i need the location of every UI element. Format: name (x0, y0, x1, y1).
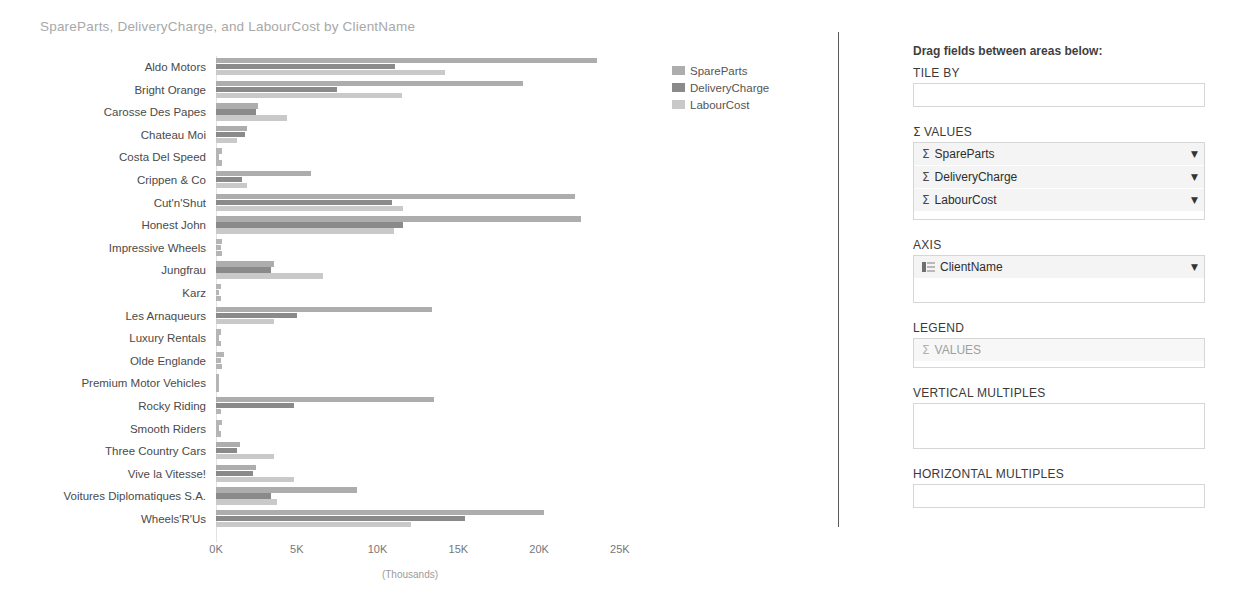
bar-labourcost[interactable] (216, 183, 247, 188)
bar-deliverycharge[interactable] (216, 154, 219, 159)
bar-labourcost[interactable] (216, 273, 323, 278)
bar-spareparts[interactable] (216, 352, 224, 357)
chevron-down-icon[interactable]: ▼ (1191, 149, 1198, 159)
bar-deliverycharge[interactable] (216, 200, 392, 205)
bar-labourcost[interactable] (216, 115, 287, 120)
bar-group[interactable] (216, 101, 636, 124)
bar-group[interactable] (216, 418, 636, 441)
bar-deliverycharge[interactable] (216, 109, 256, 114)
bar-deliverycharge[interactable] (216, 448, 237, 453)
bar-deliverycharge[interactable] (216, 358, 221, 363)
well-field-item[interactable]: ΣLabourCost▼ (914, 189, 1204, 212)
legend-item[interactable]: DeliveryCharge (672, 79, 769, 96)
bar-group[interactable] (216, 350, 636, 373)
legend-item[interactable]: SpareParts (672, 62, 769, 79)
bar-labourcost[interactable] (216, 499, 277, 504)
bar-deliverycharge[interactable] (216, 290, 219, 295)
bar-group[interactable] (216, 259, 636, 282)
bar-labourcost[interactable] (216, 409, 221, 414)
well-field-item[interactable]: ΣVALUES (914, 339, 1204, 362)
bar-group[interactable] (216, 79, 636, 102)
bar-labourcost[interactable] (216, 431, 221, 436)
bar-deliverycharge[interactable] (216, 403, 294, 408)
bar-deliverycharge[interactable] (216, 245, 221, 250)
bar-spareparts[interactable] (216, 442, 240, 447)
bar-deliverycharge[interactable] (216, 335, 219, 340)
bar-deliverycharge[interactable] (216, 380, 219, 385)
bar-labourcost[interactable] (216, 70, 445, 75)
bar-group[interactable] (216, 192, 636, 215)
chevron-down-icon[interactable]: ▼ (1191, 195, 1198, 205)
bar-group[interactable] (216, 508, 636, 531)
bar-deliverycharge[interactable] (216, 471, 253, 476)
bar-group[interactable] (216, 124, 636, 147)
bar-group[interactable] (216, 372, 636, 395)
bar-spareparts[interactable] (216, 261, 274, 266)
bar-spareparts[interactable] (216, 103, 258, 108)
chart-visual[interactable]: SpareParts, DeliveryCharge, and LabourCo… (0, 0, 836, 595)
bar-labourcost[interactable] (216, 522, 411, 527)
well-dropzone-values[interactable]: ΣSpareParts▼ΣDeliveryCharge▼ΣLabourCost▼ (913, 142, 1205, 220)
bar-labourcost[interactable] (216, 251, 222, 256)
well-field-item[interactable]: ClientName▼ (914, 256, 1204, 279)
chevron-down-icon[interactable]: ▼ (1191, 172, 1198, 182)
bar-spareparts[interactable] (216, 284, 221, 289)
bar-spareparts[interactable] (216, 487, 357, 492)
bar-labourcost[interactable] (216, 228, 394, 233)
bar-spareparts[interactable] (216, 329, 221, 334)
bar-group[interactable] (216, 169, 636, 192)
well-dropzone-legend[interactable]: ΣVALUES (913, 338, 1205, 368)
bar-spareparts[interactable] (216, 58, 597, 63)
bar-labourcost[interactable] (216, 364, 222, 369)
bar-labourcost[interactable] (216, 160, 222, 165)
bar-spareparts[interactable] (216, 126, 247, 131)
bar-labourcost[interactable] (216, 206, 403, 211)
bar-deliverycharge[interactable] (216, 222, 403, 227)
bar-labourcost[interactable] (216, 296, 221, 301)
well-field-item[interactable]: ΣDeliveryCharge▼ (914, 166, 1204, 189)
bar-labourcost[interactable] (216, 93, 402, 98)
bar-deliverycharge[interactable] (216, 493, 271, 498)
bar-spareparts[interactable] (216, 397, 434, 402)
bar-group[interactable] (216, 146, 636, 169)
bar-deliverycharge[interactable] (216, 425, 219, 430)
bar-labourcost[interactable] (216, 477, 294, 482)
well-dropzone-vertical-multiples[interactable] (913, 403, 1205, 449)
bar-group[interactable] (216, 237, 636, 260)
bar-deliverycharge[interactable] (216, 87, 337, 92)
bar-spareparts[interactable] (216, 171, 311, 176)
bar-labourcost[interactable] (216, 386, 219, 391)
bar-group[interactable] (216, 327, 636, 350)
legend-item[interactable]: LabourCost (672, 96, 769, 113)
bar-group[interactable] (216, 214, 636, 237)
bar-deliverycharge[interactable] (216, 313, 297, 318)
bar-spareparts[interactable] (216, 194, 575, 199)
bar-spareparts[interactable] (216, 81, 523, 86)
bar-spareparts[interactable] (216, 216, 581, 221)
bar-labourcost[interactable] (216, 341, 221, 346)
bar-deliverycharge[interactable] (216, 64, 395, 69)
bar-spareparts[interactable] (216, 239, 222, 244)
chevron-down-icon[interactable]: ▼ (1191, 262, 1198, 272)
well-dropzone-tile-by[interactable] (913, 83, 1205, 107)
bar-group[interactable] (216, 440, 636, 463)
bar-group[interactable] (216, 463, 636, 486)
bar-spareparts[interactable] (216, 374, 219, 379)
bar-deliverycharge[interactable] (216, 516, 465, 521)
bar-group[interactable] (216, 305, 636, 328)
bar-labourcost[interactable] (216, 454, 274, 459)
bar-spareparts[interactable] (216, 148, 222, 153)
bar-spareparts[interactable] (216, 510, 544, 515)
bar-group[interactable] (216, 485, 636, 508)
bar-group[interactable] (216, 282, 636, 305)
bar-deliverycharge[interactable] (216, 267, 271, 272)
bar-spareparts[interactable] (216, 420, 222, 425)
well-dropzone-axis[interactable]: ClientName▼ (913, 255, 1205, 303)
chart-legend[interactable]: SparePartsDeliveryChargeLabourCost (672, 62, 769, 113)
well-dropzone-horizontal-multiples[interactable] (913, 484, 1205, 508)
well-field-item[interactable]: ΣSpareParts▼ (914, 143, 1204, 166)
bar-group[interactable] (216, 395, 636, 418)
bar-deliverycharge[interactable] (216, 132, 245, 137)
bar-spareparts[interactable] (216, 307, 432, 312)
bar-labourcost[interactable] (216, 319, 274, 324)
